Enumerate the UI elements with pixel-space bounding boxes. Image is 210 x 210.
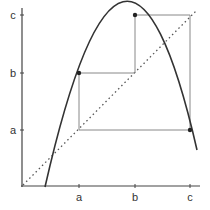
point-a-b <box>77 71 81 75</box>
y-label-a: a <box>10 124 17 136</box>
point-c-a <box>188 128 192 132</box>
x-label-b: b <box>132 191 138 203</box>
x-label-a: a <box>76 191 83 203</box>
cobweb-path <box>79 15 190 130</box>
identity-line <box>23 10 197 185</box>
x-label-c: c <box>187 191 193 203</box>
y-label-c: c <box>10 9 16 21</box>
y-label-b: b <box>10 67 16 79</box>
parabola-curve <box>45 1 197 187</box>
cobweb-diagram: c b a a b c <box>0 0 210 210</box>
point-b-c <box>133 13 137 17</box>
